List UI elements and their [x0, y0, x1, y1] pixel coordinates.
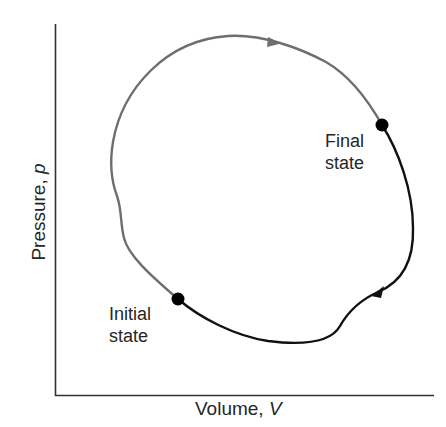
x-axis-label: Volume, V	[195, 398, 282, 420]
y-axis-label-var: p	[28, 163, 49, 174]
x-axis-label-text: Volume,	[195, 398, 269, 419]
final-state-label: Final state	[325, 130, 364, 174]
arrow-down-left-icon	[371, 286, 384, 298]
initial-state-dot	[172, 293, 185, 306]
initial-state-label: Initial state	[109, 303, 151, 347]
initial-state-line1: Initial	[109, 303, 151, 325]
y-axis-label: Pressure, p	[28, 163, 50, 260]
lower-path	[178, 125, 413, 343]
initial-state-line2: state	[109, 325, 151, 347]
pv-diagram	[0, 0, 446, 427]
final-state-dot	[376, 119, 389, 132]
final-state-line1: Final	[325, 130, 364, 152]
final-state-line2: state	[325, 152, 364, 174]
y-axis-label-text: Pressure,	[28, 174, 49, 261]
x-axis-label-var: V	[269, 398, 282, 419]
